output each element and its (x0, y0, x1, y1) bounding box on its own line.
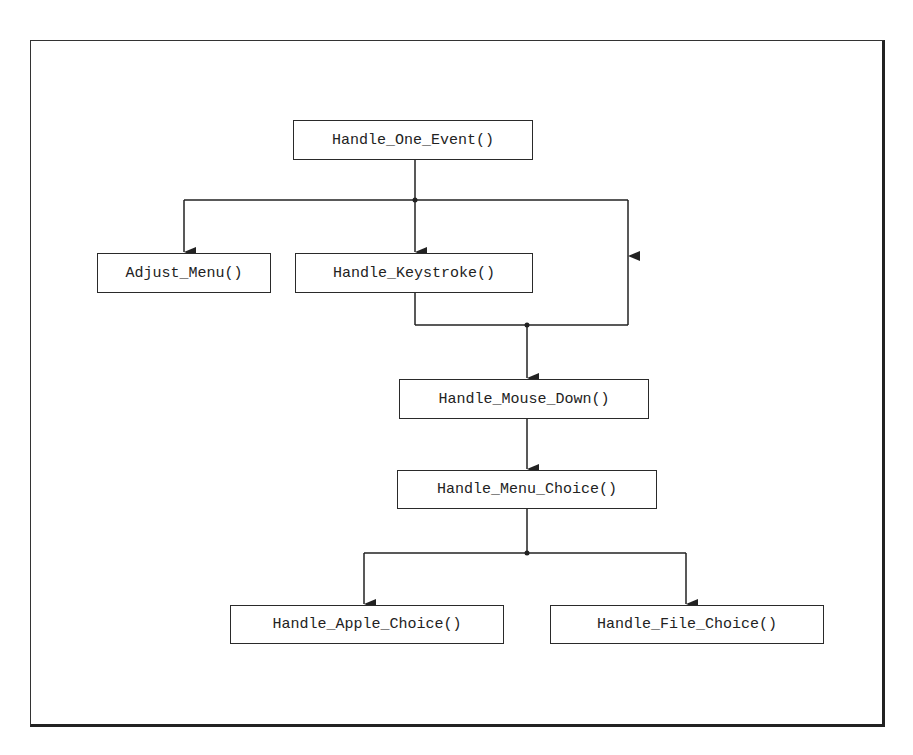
node-handle-one-event: Handle_One_Event() (293, 120, 533, 160)
node-handle-file-choice: Handle_File_Choice() (550, 605, 824, 644)
node-handle-mouse-down: Handle_Mouse_Down() (399, 379, 649, 419)
node-handle-menu-choice: Handle_Menu_Choice() (397, 470, 657, 509)
node-adjust-menu: Adjust_Menu() (97, 253, 271, 293)
node-handle-apple-choice: Handle_Apple_Choice() (230, 605, 504, 644)
node-handle-keystroke: Handle_Keystroke() (295, 253, 533, 293)
